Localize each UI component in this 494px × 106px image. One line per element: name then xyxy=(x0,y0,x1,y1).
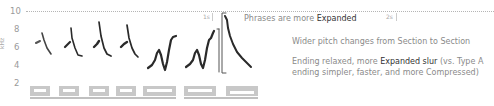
section-bar-1 xyxy=(30,86,50,96)
annotation-line-2: Ending relaxed, more Expanded slur (vs. … xyxy=(292,56,483,67)
line2-text-a: Ending relaxed, more xyxy=(292,57,380,66)
line2-emphasis: Expanded slur xyxy=(380,57,437,66)
headline-prefix: Phrases are more xyxy=(244,14,317,23)
section-bar-4 xyxy=(116,86,136,96)
section-bar-6 xyxy=(184,86,216,96)
annotation-line-3: ending simpler, faster, and more Compres… xyxy=(292,67,479,78)
section-bar-2 xyxy=(59,86,79,96)
phrase-baseline-2 xyxy=(184,97,258,99)
section-bar-7 xyxy=(226,86,258,96)
headline-annotation: Phrases are more Expanded xyxy=(244,13,357,24)
phrase-baseline-1 xyxy=(30,97,176,99)
section-bar-5 xyxy=(143,86,176,96)
annotation-line-1: Wider pitch changes from Section to Sect… xyxy=(292,36,470,47)
headline-emphasis: Expanded xyxy=(317,14,357,23)
line2-text-b: (vs. Type A xyxy=(437,57,483,66)
section-bar-3 xyxy=(89,86,109,96)
